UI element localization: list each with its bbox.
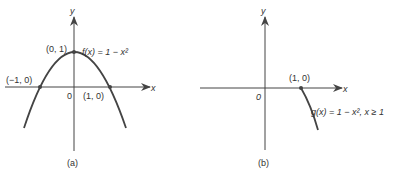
point-1-0-b: [299, 86, 303, 90]
x-axis-label-b: x: [342, 84, 348, 94]
caption-a: (a): [67, 158, 78, 168]
x-axis-label-a: x: [150, 83, 156, 93]
panel-b: y x 0 (1, 0) g(x) = 1 − x², x ≥ 1 (b): [200, 6, 384, 168]
panel-a: y x 0 (0, 1) (−1, 0) (1, 0) f(x) = 1 − x…: [5, 6, 156, 168]
point-vertex: [72, 50, 76, 54]
figure: y x 0 (0, 1) (−1, 0) (1, 0) f(x) = 1 − x…: [0, 0, 405, 176]
point-label-1-b: (1, 0): [289, 73, 310, 83]
origin-label-a: 0: [67, 91, 72, 101]
function-label-f: f(x) = 1 − x²: [82, 47, 129, 57]
origin-label-b: 0: [256, 92, 261, 102]
caption-b: (b): [258, 158, 269, 168]
point-label-neg1: (−1, 0): [6, 75, 32, 85]
point-label-1-a: (1, 0): [83, 91, 104, 101]
y-axis-label-b: y: [260, 6, 266, 16]
y-axis-label-a: y: [69, 6, 75, 16]
function-label-g: g(x) = 1 − x², x ≥ 1: [311, 107, 384, 117]
point-neg1-0: [38, 85, 42, 89]
parabola-f: [24, 52, 126, 128]
point-1-0-a: [108, 85, 112, 89]
point-label-vertex: (0, 1): [46, 44, 67, 54]
